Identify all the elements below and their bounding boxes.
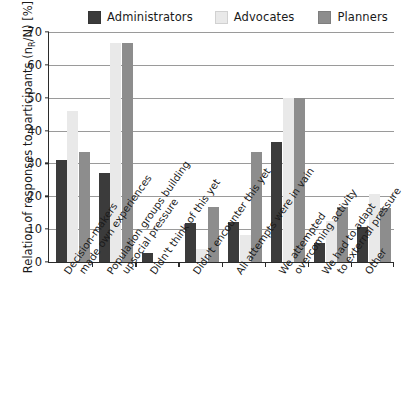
- x-axis-category-label-line1: Other: [363, 246, 389, 276]
- bar-chart: Administrators Advocates Planners Relati…: [0, 0, 404, 403]
- x-axis-labels: Decision-makersmade own experiencesPopul…: [0, 0, 404, 403]
- x-axis-category-label-line1: Didn't encounter this yet: [191, 166, 273, 276]
- x-axis-category-label: Didn't encounter this yet: [191, 166, 273, 277]
- x-axis-category-label: Other: [363, 246, 389, 276]
